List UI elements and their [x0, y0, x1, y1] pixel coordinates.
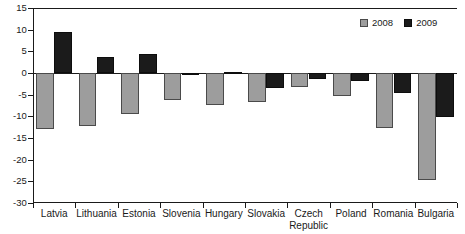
bar-group	[203, 8, 245, 203]
bar-2009-romania	[394, 73, 412, 93]
legend-item-2009[interactable]: 2009	[404, 18, 437, 28]
legend-label-2009: 2009	[416, 18, 437, 28]
legend-swatch-2009-icon	[404, 19, 412, 27]
bar-2009-estonia	[139, 54, 157, 73]
bar-group	[415, 8, 457, 203]
bar-2008-romania	[376, 73, 394, 128]
bar-2008-latvia	[36, 73, 54, 129]
bars-layer	[33, 8, 457, 203]
bar-2008-bulgaria	[418, 73, 436, 180]
bar-2008-slovenia	[164, 73, 182, 100]
bar-group	[287, 8, 329, 203]
legend-item-2008[interactable]: 2008	[360, 18, 393, 28]
bar-group	[160, 8, 202, 203]
bar-2009-czech-republic	[309, 73, 327, 79]
bar-group	[75, 8, 117, 203]
x-axis-label: Bulgaria	[411, 208, 461, 220]
bar-2008-estonia	[121, 73, 139, 114]
bar-chart: 151050-5-10-15-20-25-30 LatviaLithuaniaE…	[0, 0, 465, 234]
bar-2009-poland	[351, 73, 369, 81]
chart-legend: 2008 2009	[360, 18, 437, 28]
bar-group	[330, 8, 372, 203]
bar-group	[33, 8, 75, 203]
legend-label-2008: 2008	[372, 18, 393, 28]
bar-2009-slovakia	[266, 73, 284, 88]
bar-2009-bulgaria	[436, 73, 454, 117]
bar-group	[118, 8, 160, 203]
bar-2009-latvia	[54, 32, 72, 73]
bar-2008-slovakia	[248, 73, 266, 102]
x-axis-tick-mark	[457, 203, 458, 208]
bar-2008-lithuania	[79, 73, 97, 126]
bar-2009-hungary	[224, 72, 242, 74]
legend-swatch-2008-icon	[360, 19, 368, 27]
bar-group	[372, 8, 414, 203]
bar-2009-slovenia	[182, 73, 200, 75]
bar-group	[245, 8, 287, 203]
bar-2009-lithuania	[97, 57, 115, 73]
bar-2008-czech-republic	[291, 73, 309, 87]
bar-2008-poland	[333, 73, 351, 96]
bar-2008-hungary	[206, 73, 224, 105]
